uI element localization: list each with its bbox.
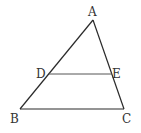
label-d: D <box>36 67 46 81</box>
label-b: B <box>10 112 19 126</box>
triangle-figure: A B C D E <box>0 0 141 133</box>
segment-ab <box>20 20 93 109</box>
label-a: A <box>87 5 97 19</box>
label-e: E <box>112 67 121 81</box>
label-c: C <box>122 112 131 126</box>
segment-ac <box>93 20 124 109</box>
triangle-diagram: A B C D E <box>0 0 141 133</box>
